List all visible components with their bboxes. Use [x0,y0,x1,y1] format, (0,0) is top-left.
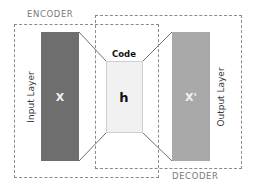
decoder-label: DECODER [172,171,219,181]
autoencoder-diagram: ENCODER DECODER X Input Layer Code h X' … [0,0,256,190]
output-layer-label: Output Layer [216,67,226,126]
code-label: Code [112,49,136,59]
code-symbol: h [119,90,128,105]
encoder-label: ENCODER [27,9,73,19]
input-layer-label: Input Layer [26,71,36,122]
input-symbol: X [56,91,64,104]
output-symbol: X' [185,91,197,104]
